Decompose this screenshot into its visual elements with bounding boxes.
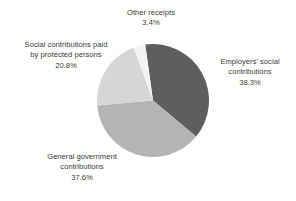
slice-label-employers-social-line2: contributions (204, 67, 296, 77)
slice-label-general-government-percent: 37.6% (18, 173, 146, 183)
slice-label-general-government-line2: contributions (18, 162, 146, 172)
slice-label-employers-social-percent: 38.3% (204, 78, 296, 88)
slice-label-general-government-line1: General government (18, 152, 146, 162)
slice-label-protected-persons-line1: Social contributions paid (2, 40, 130, 50)
slice-label-protected-persons: Social contributions paid by protected p… (2, 40, 130, 71)
slice-label-general-government: General government contributions 37.6% (18, 152, 146, 183)
slice-label-other-receipts: Other receipts 3.4% (96, 8, 206, 29)
slice-label-other-receipts-line1: Other receipts (96, 8, 206, 18)
pie-chart-figure: Other receipts 3.4% Social contributions… (0, 0, 296, 201)
slice-label-employers-social: Employers' social contributions 38.3% (204, 57, 296, 88)
slice-label-protected-persons-percent: 20.8% (2, 61, 130, 71)
slice-label-other-receipts-percent: 3.4% (96, 18, 206, 28)
slice-label-employers-social-line1: Employers' social (204, 57, 296, 67)
slice-label-protected-persons-line2: by protected persons (2, 50, 130, 60)
